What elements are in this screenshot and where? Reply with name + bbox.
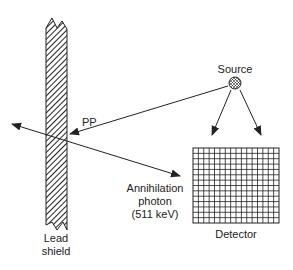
detector-label: Detector xyxy=(215,228,257,240)
annihilation-label-line3: (511 keV) xyxy=(132,208,179,220)
shield-label-line1: Lead xyxy=(44,232,68,244)
lead-shield xyxy=(46,18,67,230)
annihilation-label-line2: photon xyxy=(138,195,172,207)
pp-label: PP xyxy=(82,116,97,128)
shield-label-line2: shield xyxy=(42,245,71,257)
source-label: Source xyxy=(218,63,253,75)
gamma-ray-arrow-right xyxy=(240,90,261,135)
source-icon xyxy=(229,77,241,89)
detector-grid xyxy=(193,148,279,223)
annihilation-photon-arrow-right xyxy=(57,138,180,176)
gamma-ray-arrow-left xyxy=(212,90,231,135)
pet-shield-diagram: Source PP Annihilation photon (511 keV) … xyxy=(0,0,293,270)
annihilation-label-line1: Annihilation xyxy=(127,182,184,194)
